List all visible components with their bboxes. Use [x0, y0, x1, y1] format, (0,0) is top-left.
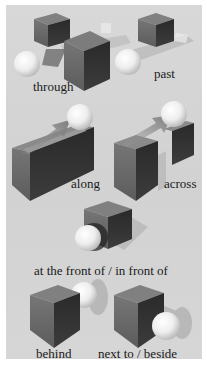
label-past: past — [154, 67, 175, 80]
label-next-to: next to / beside — [98, 347, 177, 360]
block-right — [164, 121, 194, 165]
label-in-front-of: at the front of / in front of — [34, 264, 168, 277]
label-through: through — [33, 80, 73, 93]
sphere — [115, 49, 141, 75]
sphere — [75, 225, 101, 251]
cube — [138, 13, 174, 47]
label-along: along — [71, 177, 100, 190]
block-left — [114, 135, 158, 201]
in-front-of-illustration — [75, 201, 148, 251]
behind-illustration — [30, 279, 108, 348]
sphere — [14, 51, 40, 77]
sphere — [161, 101, 187, 127]
label-behind: behind — [36, 347, 71, 360]
sphere — [67, 104, 93, 130]
label-across: across — [164, 177, 197, 190]
cube — [30, 285, 80, 348]
next-to-illustration — [114, 285, 192, 348]
sphere — [152, 312, 180, 340]
illustration-panel: through past along across at the front o… — [6, 5, 202, 359]
